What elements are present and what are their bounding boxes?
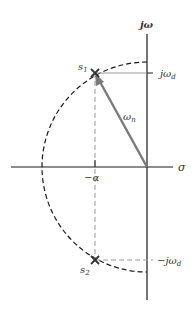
wn-label: ωn [123,111,136,124]
s-plane-diagram: jω σ s1 s2 jωd −jωd ωn −α [0,0,195,312]
s2-label: s2 [80,264,90,277]
real-axis-label: σ [178,161,186,174]
imaginary-axis-label: jω [138,19,154,30]
jwd-label: jωd [158,68,176,81]
wn-vector [99,80,147,167]
s1-label: s1 [78,61,88,74]
neg-alpha-label: −α [84,172,99,183]
neg-jwd-label: −jωd [157,255,182,268]
